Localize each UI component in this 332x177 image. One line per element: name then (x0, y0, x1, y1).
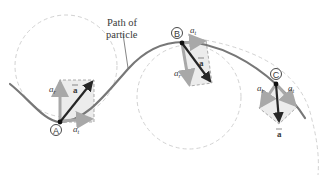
radial-label-c: ar (257, 83, 265, 94)
svg-text:B: B (174, 29, 180, 39)
total-label-b: a (198, 58, 204, 68)
acceleration-diagram: A B C Path of particle ar at a at ar a a… (0, 0, 332, 177)
svg-text:a: a (73, 85, 78, 95)
tangential-label-c: at (288, 83, 295, 94)
svg-text:A: A (53, 126, 59, 136)
point-dot-b (180, 41, 185, 46)
point-dot-a (58, 120, 63, 125)
point-label-c: C (271, 69, 282, 80)
radial-label-a: ar (49, 84, 57, 95)
particle-path (10, 42, 305, 122)
total-label-a: a (72, 85, 78, 95)
total-label-c: a (276, 129, 282, 139)
tangential-label-b: at (190, 25, 197, 36)
svg-text:C: C (273, 70, 280, 80)
tangential-label-a: at (73, 124, 80, 135)
point-dot-c (274, 82, 279, 87)
path-label-line2: particle (106, 29, 138, 40)
tangential-arrow-b (182, 41, 204, 43)
point-label-a: A (51, 125, 62, 136)
path-label-line1: Path of (107, 17, 138, 28)
radial-label-b: ar (174, 68, 182, 79)
svg-text:a: a (199, 58, 204, 68)
tangential-arrow-a (60, 119, 91, 121)
svg-text:a: a (277, 129, 282, 139)
point-label-b: B (172, 28, 183, 39)
